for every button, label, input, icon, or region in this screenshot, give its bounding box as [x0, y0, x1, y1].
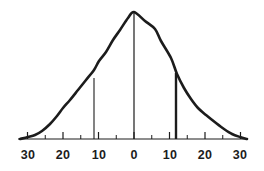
x-axis-tick-label: 30 [13, 148, 43, 162]
axis-group [18, 132, 246, 139]
x-axis-tick-label: 10 [84, 148, 114, 162]
bell-curve-plot [0, 0, 264, 171]
x-axis-tick-label: 10 [155, 148, 185, 162]
bell-curve-figure: 3020100102030 [0, 0, 264, 171]
x-axis-tick-label: 20 [190, 148, 220, 162]
x-axis-tick-label: 0 [119, 148, 149, 162]
x-axis-tick-label: 30 [225, 148, 255, 162]
vertical-reference-lines [94, 13, 176, 139]
x-axis-tick-label: 20 [48, 148, 78, 162]
